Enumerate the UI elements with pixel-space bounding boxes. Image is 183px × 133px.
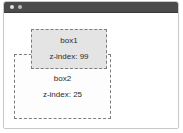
box1-title: box1 xyxy=(60,37,77,45)
window-control-minimize-icon[interactable] xyxy=(18,5,22,9)
stacking-box-box1[interactable]: box1 z-index: 99 xyxy=(31,29,107,69)
window-titlebar[interactable] xyxy=(4,2,178,13)
app-window: box2 z-index: 25 box1 z-index: 99 xyxy=(3,1,179,129)
box2-title: box2 xyxy=(54,75,71,83)
window-control-close-icon[interactable] xyxy=(10,5,14,9)
box1-zindex-label: z-index: 99 xyxy=(49,53,88,61)
box2-zindex-label: z-index: 25 xyxy=(43,91,82,99)
content-canvas: box2 z-index: 25 box1 z-index: 99 xyxy=(4,13,178,128)
window-controls-group xyxy=(10,5,22,9)
